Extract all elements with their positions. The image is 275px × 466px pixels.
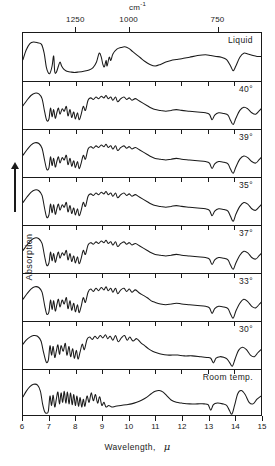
x-tick-label: 14 bbox=[231, 422, 240, 431]
spectrum-trace bbox=[23, 322, 261, 369]
top-tick-label: 1250 bbox=[66, 15, 85, 24]
panel-label: 35° bbox=[239, 180, 253, 190]
spectrum-panel: 35° bbox=[23, 177, 261, 225]
plot-frame: Liquid40°39°35°37°33°30°Room temp. bbox=[22, 32, 262, 416]
spectrum-panel: Room temp. bbox=[23, 369, 261, 417]
x-tick-label: 11 bbox=[151, 422, 159, 431]
x-tick-label: 13 bbox=[204, 422, 213, 431]
x-tick-label: 12 bbox=[178, 422, 187, 431]
panel-label: Liquid bbox=[228, 35, 253, 45]
spectrum-trace bbox=[23, 130, 261, 177]
x-tick-label: 7 bbox=[46, 422, 50, 431]
spectrum-panel: 37° bbox=[23, 225, 261, 273]
ir-spectra-figure: cm-1 12501000750 Liquid40°39°35°37°33°30… bbox=[0, 0, 275, 466]
spectrum-panel: Liquid bbox=[23, 33, 261, 81]
x-axis-unit: μ bbox=[156, 441, 171, 452]
panel-label: 30° bbox=[239, 324, 253, 334]
x-tick-label: 15 bbox=[258, 422, 267, 431]
x-tick-mark bbox=[262, 416, 263, 421]
up-arrow-icon bbox=[14, 168, 16, 212]
spectrum-panel: 39° bbox=[23, 129, 261, 177]
spectrum-trace bbox=[23, 82, 261, 129]
x-axis-title: Wavelength,μ bbox=[0, 441, 275, 452]
x-axis-label: Wavelength, bbox=[104, 442, 155, 452]
top-tick-label: 750 bbox=[211, 15, 225, 24]
panel-label: 37° bbox=[239, 228, 253, 238]
spectrum-panel: 40° bbox=[23, 81, 261, 129]
x-tick-label: 10 bbox=[124, 422, 133, 431]
spectrum-trace bbox=[23, 226, 261, 273]
spectrum-panel: 33° bbox=[23, 273, 261, 321]
top-tick-label: 1000 bbox=[119, 15, 138, 24]
spectrum-trace bbox=[23, 274, 261, 321]
top-axis-exponent: -1 bbox=[140, 1, 146, 7]
spectrum-trace bbox=[23, 33, 261, 81]
spectrum-panel: 30° bbox=[23, 321, 261, 369]
panel-label: 39° bbox=[239, 132, 253, 142]
panel-label: 40° bbox=[239, 84, 253, 94]
x-tick-label: 8 bbox=[73, 422, 77, 431]
top-axis-title: cm-1 bbox=[0, 1, 275, 12]
spectrum-trace bbox=[23, 178, 261, 225]
panel-label: Room temp. bbox=[203, 372, 253, 382]
x-tick-label: 9 bbox=[100, 422, 104, 431]
x-tick-label: 6 bbox=[20, 422, 24, 431]
top-axis-unit: cm bbox=[129, 3, 140, 12]
panel-label: 33° bbox=[239, 276, 253, 286]
